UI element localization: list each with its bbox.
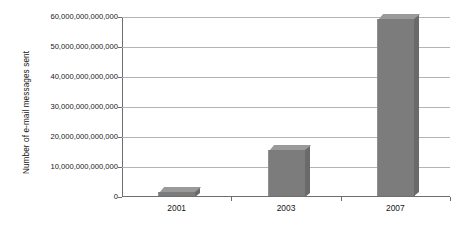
x-axis-tick-mark bbox=[231, 197, 232, 201]
y-axis-tick-mark bbox=[118, 197, 122, 198]
y-axis-tick-mark bbox=[118, 137, 122, 138]
bar bbox=[268, 145, 305, 197]
y-axis-tick-label: 20,000,000,000,000 bbox=[36, 133, 118, 141]
y-axis-tick-mark bbox=[118, 107, 122, 108]
bar-top-face bbox=[269, 145, 310, 150]
x-axis-tick-label: 2001 bbox=[167, 203, 186, 213]
x-axis-tick-mark bbox=[450, 197, 451, 201]
y-axis-tick-label: 50,000,000,000,000 bbox=[36, 43, 118, 51]
y-axis-tick-label: 40,000,000,000,000 bbox=[36, 73, 118, 81]
y-axis-tick-label: 30,000,000,000,000 bbox=[36, 103, 118, 111]
bar-front-face bbox=[158, 192, 196, 197]
y-axis-title: Number of e-mail messages sent bbox=[20, 28, 34, 196]
x-axis-tick-label: 2007 bbox=[386, 203, 405, 213]
bar-side-face bbox=[414, 15, 419, 196]
y-axis-tick-mark bbox=[118, 17, 122, 18]
bar-front-face bbox=[268, 150, 306, 197]
bar-side-face bbox=[305, 145, 310, 196]
bar bbox=[377, 14, 414, 196]
y-axis-tick-mark bbox=[118, 47, 122, 48]
y-axis-tick-labels: 010,000,000,000,00020,000,000,000,00030,… bbox=[36, 0, 118, 227]
y-axis-tick-label: 0 bbox=[36, 193, 118, 201]
x-axis-tick-mark bbox=[341, 197, 342, 201]
bar-chart: Number of e-mail messages sent 010,000,0… bbox=[0, 0, 471, 227]
plot-area bbox=[122, 17, 450, 197]
x-axis-tick-label: 2003 bbox=[277, 203, 296, 213]
y-axis-tick-label: 10,000,000,000,000 bbox=[36, 163, 118, 171]
y-axis-tick-mark bbox=[118, 77, 122, 78]
x-axis-tick-labels: 200120032007 bbox=[122, 203, 450, 219]
bar bbox=[158, 187, 195, 197]
y-axis-tick-label: 60,000,000,000,000 bbox=[36, 13, 118, 21]
y-axis-tick-mark bbox=[118, 167, 122, 168]
y-axis-title-label: Number of e-mail messages sent bbox=[23, 50, 32, 173]
bar-front-face bbox=[377, 19, 415, 196]
x-axis-line bbox=[122, 196, 450, 197]
